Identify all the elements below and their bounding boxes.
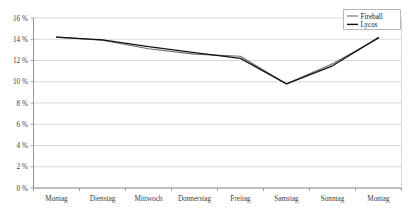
y-tick-label: 4 % (17, 142, 28, 150)
legend-label-fireball: Fireball (361, 13, 383, 21)
y-tick-label: 12 % (13, 57, 28, 65)
y-tick-label: 8 % (17, 100, 28, 108)
y-tick-label: 6 % (17, 121, 28, 129)
y-tick-label: 16 % (13, 15, 28, 23)
x-tick-label: Mittwoch (135, 195, 163, 203)
chart-canvas: 0 %2 %4 %6 %8 %10 %12 %14 %16 % MontagDi… (0, 0, 410, 223)
x-tick-label: Freitag (230, 195, 251, 203)
line-chart: 0 %2 %4 %6 %8 %10 %12 %14 %16 % MontagDi… (0, 0, 410, 223)
chart-legend: FireballLycos (344, 10, 401, 30)
x-tick-label: Donnerstag (178, 195, 212, 203)
y-tick-label: 14 % (13, 36, 28, 44)
x-tick-label: Montag (367, 195, 390, 203)
legend-label-lycos: Lycos (361, 21, 378, 29)
y-axis-labels: 0 %2 %4 %6 %8 %10 %12 %14 %16 % (13, 15, 28, 193)
y-tick-label: 10 % (13, 78, 28, 86)
y-tick-label: 0 % (17, 185, 28, 193)
gridlines (34, 18, 402, 188)
x-tick-label: Sonntag (321, 195, 345, 203)
x-axis-labels: MontagDienstagMittwochDonnerstagFreitagS… (45, 195, 390, 203)
x-tick-label: Dienstag (90, 195, 116, 203)
x-tick-label: Montag (45, 195, 68, 203)
x-tick-label: Samstag (274, 195, 299, 203)
y-tick-label: 2 % (17, 163, 28, 171)
